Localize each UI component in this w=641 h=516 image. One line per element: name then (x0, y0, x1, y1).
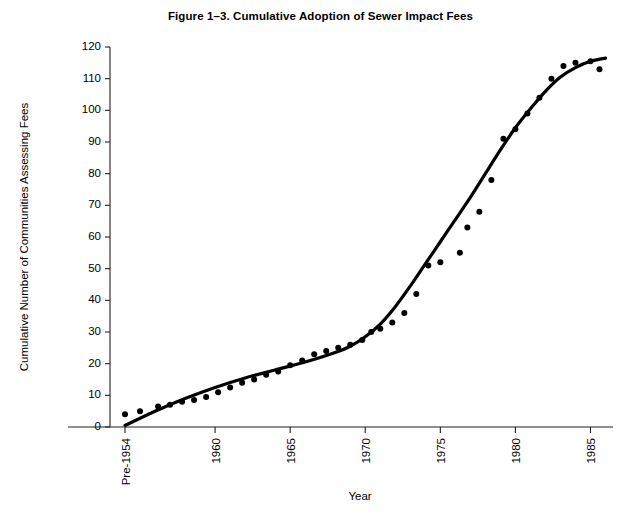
data-point (457, 250, 463, 256)
data-point (323, 348, 329, 354)
y-tick-label: 120 (82, 40, 101, 52)
data-point (587, 58, 593, 64)
x-tick-label: 1960 (210, 438, 222, 464)
y-tick-label: 60 (88, 230, 101, 242)
data-point (377, 326, 383, 332)
figure-container: Figure 1–3. Cumulative Adoption of Sewer… (0, 0, 641, 516)
data-point (227, 384, 233, 390)
data-point (137, 408, 143, 414)
y-tick-label: 50 (88, 262, 101, 274)
data-point (122, 411, 128, 417)
data-point (500, 136, 506, 142)
x-tick-label: 1985 (585, 438, 597, 464)
y-tick-label: 40 (88, 293, 101, 305)
data-point (287, 362, 293, 368)
data-point (389, 320, 395, 326)
data-point (335, 345, 341, 351)
data-point (437, 259, 443, 265)
y-tick-label: 90 (88, 135, 101, 147)
y-tick-label: 20 (88, 357, 101, 369)
data-point (512, 126, 518, 132)
data-point (179, 399, 185, 405)
data-point (596, 66, 602, 72)
data-point (548, 76, 554, 82)
x-tick-label: 1980 (510, 438, 522, 464)
y-tick-label: 10 (88, 388, 101, 400)
x-axis-title: Year (348, 490, 371, 502)
axes-group (68, 47, 613, 427)
data-point (215, 389, 221, 395)
data-point (425, 263, 431, 269)
data-point (275, 369, 281, 375)
data-point (191, 397, 197, 403)
data-point (347, 342, 353, 348)
x-tick-label: Pre-1954 (120, 437, 132, 485)
data-point (572, 60, 578, 66)
data-point (359, 337, 365, 343)
data-point (536, 95, 542, 101)
data-point (239, 380, 245, 386)
data-point (251, 377, 257, 383)
y-tick-label: 70 (88, 198, 101, 210)
data-point (488, 177, 494, 183)
y-axis-title: Cumulative Number of Communities Assessi… (18, 103, 30, 372)
x-tick-label: 1965 (285, 438, 297, 464)
data-point (203, 394, 209, 400)
y-tick-label: 30 (88, 325, 101, 337)
data-point (263, 372, 269, 378)
x-tick-label: 1970 (360, 438, 372, 464)
data-point (413, 291, 419, 297)
data-point (464, 225, 470, 231)
y-tick-label: 100 (82, 103, 101, 115)
y-tick-label: 80 (88, 167, 101, 179)
data-point (167, 402, 173, 408)
data-point (155, 403, 161, 409)
y-axis-ticks: 0102030405060708090100110120 (82, 40, 110, 432)
data-point-group (122, 58, 602, 417)
trend-curve (125, 58, 605, 425)
data-point (524, 111, 530, 117)
chart-plot-area: 0102030405060708090100110120 Pre-1954196… (0, 0, 641, 516)
data-point (560, 63, 566, 69)
data-point (299, 358, 305, 364)
data-point (476, 209, 482, 215)
x-tick-label: 1975 (435, 438, 447, 464)
data-point (401, 310, 407, 316)
x-axis-ticks: Pre-1954196019651970197519801985 (120, 427, 597, 485)
y-tick-label: 0 (95, 420, 101, 432)
y-tick-label: 110 (83, 72, 101, 84)
data-point (368, 329, 374, 335)
data-point (311, 351, 317, 357)
